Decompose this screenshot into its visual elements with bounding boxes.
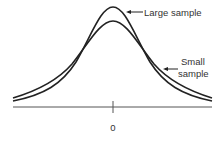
small-sample-arrow-icon	[163, 67, 168, 71]
small-sample-label-line1: Small	[181, 56, 205, 67]
large-sample-label: Large sample	[144, 7, 202, 18]
small-sample-label-line2: sample	[178, 68, 209, 79]
distribution-chart: 0 Large sample Small sample	[0, 0, 224, 143]
large-sample-arrow-icon	[126, 10, 131, 14]
x-tick-label-zero: 0	[110, 122, 115, 133]
